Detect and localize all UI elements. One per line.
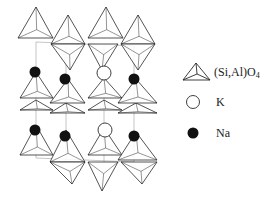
- tetrahedron: [88, 100, 122, 110]
- tetrahedron: [51, 15, 85, 44]
- na-atom: [30, 67, 41, 78]
- tetrahedron: [50, 162, 85, 184]
- na-atom: [60, 74, 71, 85]
- legend-label-k: K: [216, 96, 225, 108]
- tetrahedra-down-layer: [20, 44, 157, 191]
- tetrahedron: [88, 162, 118, 191]
- cation-layer: [30, 66, 140, 142]
- legend-label-tetrahedron: (Si,Al)O4: [214, 66, 260, 82]
- tetrahedron: [88, 78, 122, 98]
- na-atom: [30, 125, 41, 136]
- k-atom: [97, 66, 111, 80]
- tetrahedron: [88, 7, 123, 38]
- tetrahedron: [20, 100, 53, 110]
- legend-label-na: Na: [216, 127, 230, 139]
- na-atom: [129, 74, 140, 85]
- na-atom: [60, 131, 71, 142]
- k-atom: [98, 123, 112, 137]
- tetrahedron: [50, 103, 85, 113]
- tetrahedron: [121, 162, 157, 184]
- legend-filled-circle-icon: [188, 128, 199, 139]
- legend-open-circle-icon: [187, 96, 200, 109]
- crystal-structure-diagram: [0, 0, 270, 198]
- legend-tetrahedron-icon: [183, 63, 210, 80]
- tetrahedron: [121, 15, 155, 44]
- tetrahedron: [118, 103, 157, 113]
- tetrahedron: [121, 44, 155, 70]
- tetrahedron: [18, 7, 53, 38]
- legend-label-main: (Si,Al)O: [214, 65, 256, 79]
- na-atom: [129, 131, 140, 142]
- tetrahedron: [51, 44, 85, 70]
- legend-label-subscript: 4: [256, 71, 260, 80]
